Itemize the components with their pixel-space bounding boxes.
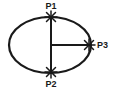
diagram-canvas: P1 P2 P3 xyxy=(0,0,115,93)
ellipse-diagram: P1 P2 P3 xyxy=(0,0,115,93)
point-label-p3: P3 xyxy=(97,40,108,50)
p3-star-marker xyxy=(83,39,95,51)
point-label-p2: P2 xyxy=(45,79,56,89)
p1-star-marker xyxy=(45,11,57,23)
p2-star-marker xyxy=(45,66,57,78)
point-label-p1: P1 xyxy=(45,1,56,11)
